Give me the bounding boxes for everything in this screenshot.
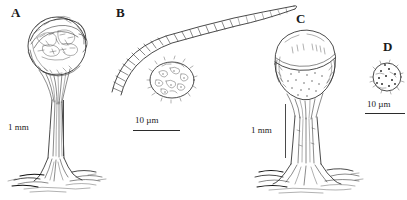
scalebar-a-label: 1 mm — [8, 123, 29, 132]
scalebar-d-label: 10 µm — [367, 100, 390, 109]
scalebar-b-label: 10 µm — [135, 116, 158, 125]
panel-d-illustration — [368, 58, 407, 100]
scalebar-a-line — [63, 100, 64, 156]
scalebar-c-line — [285, 104, 286, 158]
panel-letter-d: D — [383, 40, 392, 53]
scalebar-c-label: 1 mm — [251, 126, 272, 135]
scalebar-b-line — [133, 130, 180, 131]
panel-c-illustration — [255, 0, 375, 200]
figure-plate: A — [0, 0, 407, 200]
scalebar-d-line — [365, 113, 405, 114]
